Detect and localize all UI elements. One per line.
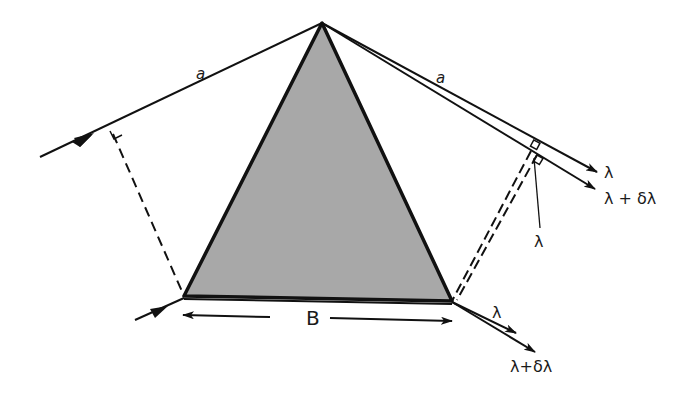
wavefront-leader bbox=[534, 158, 540, 228]
label-wavefront-lambda: λ bbox=[534, 232, 543, 251]
label-bottom-lambda-dl: λ+δλ bbox=[510, 357, 552, 376]
right-angle-marker-left bbox=[110, 131, 122, 139]
label-out-lambda-dl: λ + δλ bbox=[604, 189, 656, 208]
wavefront-left bbox=[113, 134, 184, 296]
incoming-lower-arrowhead-icon bbox=[150, 306, 168, 318]
wavefront-right-1 bbox=[452, 151, 531, 301]
base-dimension-right bbox=[330, 318, 452, 321]
label-base: B bbox=[306, 306, 320, 330]
label-bottom-lambda: λ bbox=[492, 303, 501, 322]
prism-diagram: a a λ λ + δλ λ B λ λ+δλ bbox=[0, 0, 693, 404]
base-dimension-left bbox=[183, 315, 270, 317]
label-out-lambda: λ bbox=[604, 163, 613, 182]
prism bbox=[184, 23, 452, 301]
wavefront-right-2 bbox=[457, 155, 537, 300]
label-side-left: a bbox=[196, 65, 205, 83]
label-side-right: a bbox=[436, 69, 445, 87]
